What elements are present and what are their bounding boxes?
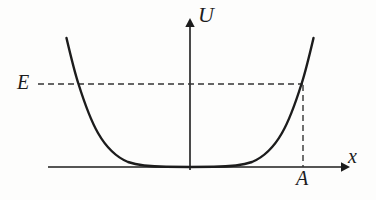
- u-axis-arrowhead-icon: [185, 18, 194, 27]
- turning-point-label: A: [296, 168, 308, 188]
- x-axis-label: x: [348, 146, 357, 166]
- potential-energy-figure: U x E A: [0, 0, 376, 200]
- figure-canvas: [0, 0, 376, 200]
- u-axis-label: U: [198, 4, 214, 26]
- u-axis: [185, 18, 194, 170]
- energy-level-label: E: [17, 72, 29, 92]
